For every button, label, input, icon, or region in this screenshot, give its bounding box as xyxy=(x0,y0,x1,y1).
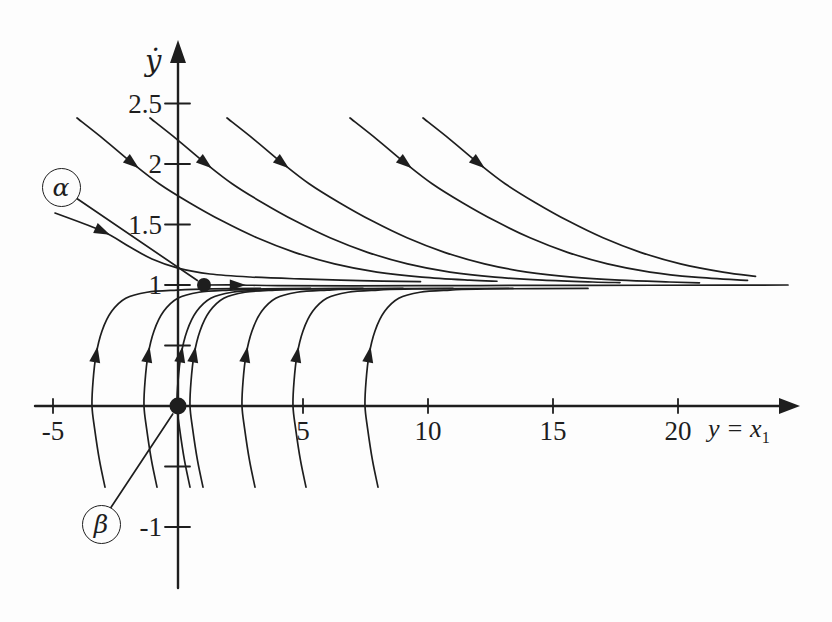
trajectory-upper-trajectory-2 xyxy=(150,118,620,283)
y-axis-arrowhead xyxy=(170,40,186,63)
x-tick-label-0: -5 xyxy=(42,416,65,446)
x-tick-label-2: 10 xyxy=(415,416,442,446)
trajectory-lower-trajectory-4 xyxy=(190,288,403,487)
y-axis-label: ẏ xyxy=(145,46,161,76)
beta-callout-label: β xyxy=(94,510,108,539)
trajectory-arrowhead xyxy=(196,154,212,168)
trajectory-arrowhead xyxy=(362,347,373,364)
y-tick-label-3: 1 xyxy=(98,270,162,300)
phase-portrait-figure: ẏ y = x1 -5 5 10 15 20 2.5 2 1.5 1 -1 α … xyxy=(0,0,832,622)
equilibrium-dot xyxy=(170,398,187,415)
trajectory-arrowhead xyxy=(141,347,152,364)
trajectory-lower-trajectory-6 xyxy=(293,288,513,487)
x-axis-arrowhead xyxy=(779,398,800,414)
trajectory-upper-trajectory-1 xyxy=(77,118,497,281)
trajectory-upper-trajectory-4 xyxy=(350,118,748,280)
x-tick-label-1: 5 xyxy=(296,416,310,446)
trajectory-upper-trajectory-5 xyxy=(423,118,756,276)
y-tick-label-1: 2 xyxy=(98,149,162,179)
trajectory-arrowhead xyxy=(290,347,301,364)
x-tick-label-3: 15 xyxy=(540,416,567,446)
beta-callout: β xyxy=(82,505,121,544)
trajectory-arrowhead xyxy=(239,347,250,364)
y-tick-label-2: 1.5 xyxy=(98,210,162,240)
x-axis-label-sub: 1 xyxy=(762,429,770,446)
alpha-callout: α xyxy=(42,168,81,207)
trajectory-lower-trajectory-5 xyxy=(242,288,453,487)
trajectory-arrowhead xyxy=(469,154,485,168)
trajectory-lower-trajectory-7 xyxy=(365,288,588,487)
trajectory-arrowhead xyxy=(273,154,289,168)
x-axis-label-main: y = x xyxy=(708,414,762,443)
alpha-callout-label: α xyxy=(53,173,70,202)
y-tick-label-0: 2.5 xyxy=(98,89,162,119)
x-axis-label: y = x1 xyxy=(708,414,770,453)
trajectory-arrowhead xyxy=(396,154,412,168)
trajectory-alpha-trajectory xyxy=(204,285,788,286)
trajectory-upper-trajectory-3 xyxy=(227,118,700,283)
trajectory-lower-trajectory-1 xyxy=(92,288,261,487)
trajectory-arrowhead xyxy=(187,347,198,364)
callout-leader-line xyxy=(111,414,173,508)
trajectory-arrowhead xyxy=(89,347,100,364)
trajectory-arrowhead xyxy=(174,347,185,364)
trajectory-lower-trajectory-2 xyxy=(144,288,311,487)
x-tick-label-4: 20 xyxy=(665,416,692,446)
initial-point-dot xyxy=(197,278,211,292)
